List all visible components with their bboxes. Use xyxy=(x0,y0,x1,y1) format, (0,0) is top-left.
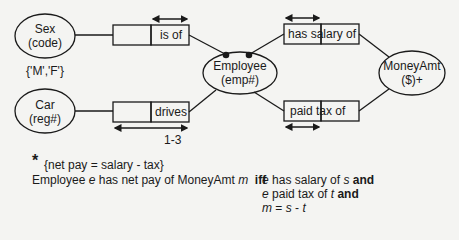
employee-tax-connector xyxy=(254,92,284,111)
employee-salary-connector xyxy=(250,34,284,54)
employee-ref-mode: (emp#) xyxy=(203,73,277,87)
drives-label: drives xyxy=(155,105,187,119)
drives-frequency: 1-3 xyxy=(164,133,181,147)
car-name: Car xyxy=(15,98,75,112)
moneyamt-name: MoneyAmt xyxy=(379,59,445,73)
salary-moneyamt-connector xyxy=(359,34,389,57)
mandatory-dot-salary xyxy=(246,52,253,59)
derivation-cond-1: e has salary of s and xyxy=(262,173,374,187)
is-of-role-box-1[interactable] xyxy=(113,25,151,45)
paid-tax-label: paid tax of xyxy=(290,104,345,118)
has-salary-label: has salary of xyxy=(288,27,356,41)
derivation-cond-3: m = s - t xyxy=(262,201,306,215)
mandatory-dot-is-of xyxy=(223,52,230,59)
derivation-head: Employee e has net pay of MoneyAmt m iff xyxy=(32,173,266,187)
drives-employee-connector xyxy=(189,90,216,112)
employee-name: Employee xyxy=(203,59,277,73)
sex-name: Sex xyxy=(15,22,75,36)
sex-ref-mode: (code) xyxy=(15,36,75,50)
derivation-cond-2: e paid tax of t and xyxy=(262,187,359,201)
sex-entity-label: Sex (code) xyxy=(15,22,75,50)
is-of-label: is of xyxy=(160,28,182,42)
moneyamt-entity-label: MoneyAmt ($)+ xyxy=(379,59,445,87)
car-ref-mode: (reg#) xyxy=(15,112,75,126)
employee-entity-label: Employee (emp#) xyxy=(203,59,277,87)
moneyamt-ref-mode: ($)+ xyxy=(379,73,445,87)
car-entity-label: Car (reg#) xyxy=(15,98,75,126)
tax-moneyamt-connector xyxy=(359,89,389,111)
drives-role-box-1[interactable] xyxy=(113,102,151,122)
derivation-rule: {net pay = salary - tax} xyxy=(44,158,164,172)
derivation-asterisk: * xyxy=(32,154,38,168)
is-of-employee-connector xyxy=(189,35,225,54)
sex-value-constraint: {'M','F'} xyxy=(15,64,75,78)
